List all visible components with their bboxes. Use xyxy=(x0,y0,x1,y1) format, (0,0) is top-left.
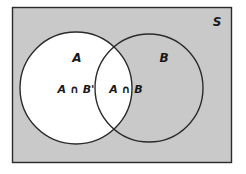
set-b-label: B xyxy=(159,51,168,65)
venn-diagram-canvas: S A B A ∩ B' A ∩ B xyxy=(0,0,246,174)
universal-set-label: S xyxy=(213,15,222,29)
set-a-label: A xyxy=(71,51,81,65)
region-a-and-b-label: A ∩ B xyxy=(108,83,143,96)
region-a-only-label: A ∩ B' xyxy=(57,83,95,96)
venn-diagram-figure: S A B A ∩ B' A ∩ B xyxy=(0,0,246,174)
